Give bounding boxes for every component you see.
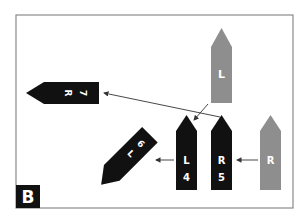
arrow-R5-to-R7 (104, 93, 220, 117)
panel-frame (16, 15, 293, 208)
piece-label: L (183, 155, 190, 166)
piece-gray-R-right: R (260, 115, 281, 190)
piece-black-R5: R 5 (211, 115, 232, 190)
piece-label: R (218, 155, 226, 166)
piece-black-R7: R 7 (26, 82, 99, 104)
piece-number: 7 (78, 90, 88, 96)
piece-label: R (63, 90, 73, 97)
panel-label: B (16, 185, 40, 208)
piece-number: 5 (218, 172, 225, 183)
piece-gray-L-top: L (211, 28, 232, 103)
piece-label: L (218, 68, 225, 81)
piece-label: R (267, 155, 275, 166)
piece-black-L4: L 4 (176, 115, 197, 190)
piece-number: 4 (183, 172, 190, 183)
piece-black-L6: L 6 (93, 127, 158, 192)
diagram-canvas: L R 7 L 4 R 5 R L 6 (0, 0, 306, 217)
